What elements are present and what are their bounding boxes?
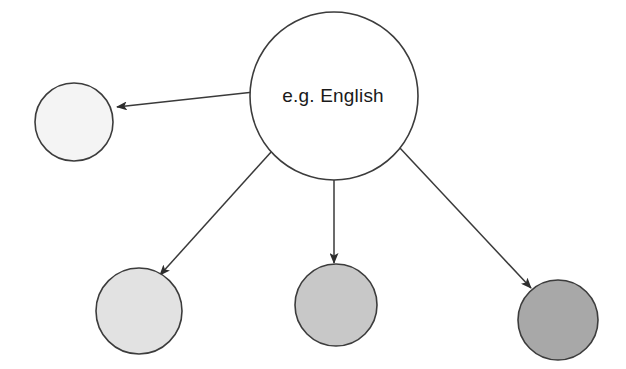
edge-center-to-bottom-right [399,147,531,288]
node-group: e.g. English [35,12,598,360]
edge-center-to-left [117,92,254,107]
node-circle-bottom-left[interactable] [96,268,182,354]
diagram-canvas: e.g. English [0,0,626,369]
node-circle-bottom-right[interactable] [518,280,598,360]
node-label-center: e.g. English [282,85,384,106]
diagram-svg: e.g. English [0,0,626,369]
edge-center-to-bottom-left [160,151,272,275]
node-circle-left[interactable] [35,83,113,161]
node-circle-bottom-middle[interactable] [295,264,377,346]
